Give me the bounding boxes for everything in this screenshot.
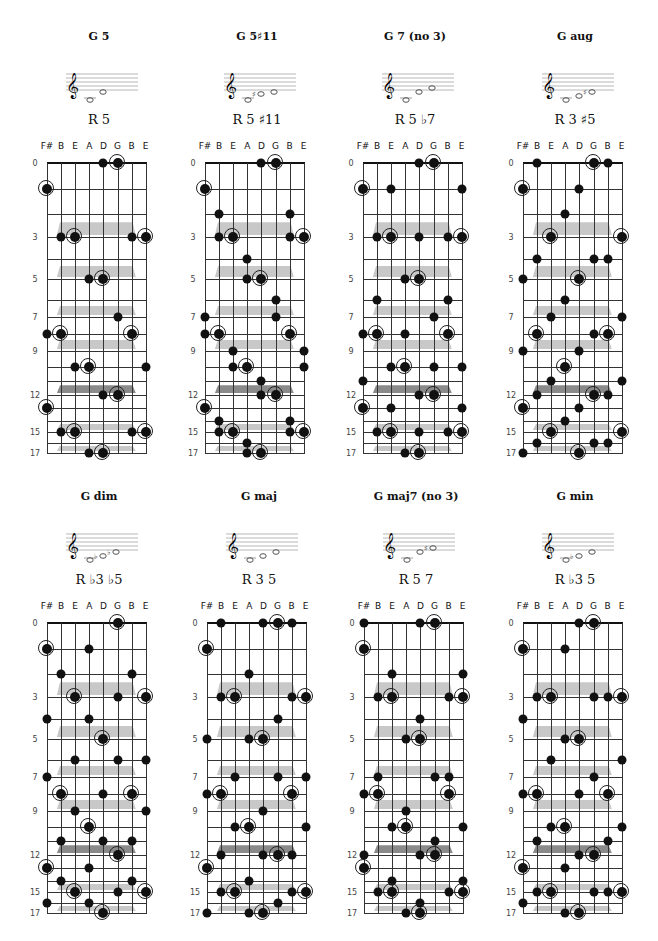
string-name-label: E bbox=[72, 141, 78, 151]
root-note-dot bbox=[400, 362, 410, 372]
string-line bbox=[292, 623, 293, 913]
fret-number-label: 0 bbox=[32, 619, 37, 628]
chord-note-dot bbox=[285, 417, 294, 426]
chord-note-dot bbox=[519, 790, 528, 799]
root-note-dot bbox=[373, 789, 383, 799]
chord-diagram: G 7 (no 3)𝄞R 5 ♭7F#BEADGBE03579121517 bbox=[336, 0, 494, 460]
string-name-label: A bbox=[86, 601, 92, 611]
chord-note-dot bbox=[141, 807, 150, 816]
fret-number-label: 12 bbox=[190, 851, 200, 860]
chord-note-dot bbox=[141, 363, 150, 372]
fret-number-label: 9 bbox=[508, 347, 513, 356]
inlay-marker bbox=[57, 766, 136, 775]
root-note-dot bbox=[70, 692, 80, 702]
chord-note-dot bbox=[519, 449, 528, 458]
root-note-dot bbox=[258, 908, 268, 918]
string-name-label: F# bbox=[358, 601, 371, 611]
string-name-label: E bbox=[388, 141, 394, 151]
root-note-dot bbox=[574, 274, 584, 284]
chord-diagram: G 5♯11𝄞♯R 5 ♯11F#BEADGBE03579121517 bbox=[178, 0, 336, 460]
inlay-marker bbox=[217, 800, 296, 809]
string-name-label: D bbox=[258, 141, 265, 151]
chord-note-dot bbox=[231, 823, 240, 832]
chord-note-dot bbox=[416, 619, 425, 628]
chord-note-dot bbox=[589, 888, 598, 897]
chord-note-dot bbox=[533, 439, 542, 448]
root-note-dot bbox=[574, 908, 584, 918]
fret-number-label: 5 bbox=[190, 275, 195, 284]
string-line bbox=[261, 163, 262, 453]
root-note-dot bbox=[228, 427, 238, 437]
fret-number-label: 9 bbox=[349, 807, 354, 816]
fret-number-label: 3 bbox=[348, 233, 353, 242]
chord-note-dot bbox=[547, 313, 556, 322]
fret-number-label: 9 bbox=[348, 347, 353, 356]
chord-note-dot bbox=[203, 909, 212, 918]
string-line bbox=[221, 623, 222, 913]
root-note-dot bbox=[141, 232, 151, 242]
root-note-dot bbox=[574, 448, 584, 458]
root-note-dot bbox=[127, 329, 137, 339]
root-note-dot bbox=[589, 618, 599, 628]
string-line bbox=[247, 163, 248, 453]
fret-number-label: 12 bbox=[188, 391, 198, 400]
root-note-dot bbox=[532, 789, 542, 799]
fret-number-label: 9 bbox=[32, 347, 37, 356]
string-line bbox=[278, 623, 279, 913]
string-line bbox=[75, 623, 76, 913]
chord-note-dot bbox=[57, 670, 66, 679]
chord-note-dot bbox=[215, 210, 224, 219]
chord-note-dot bbox=[71, 756, 80, 765]
chord-note-dot bbox=[43, 773, 52, 782]
chord-note-dot bbox=[229, 363, 238, 372]
chord-note-dot bbox=[589, 330, 598, 339]
string-name-label: B bbox=[58, 601, 64, 611]
string-name-label: G bbox=[431, 601, 438, 611]
root-note-dot bbox=[200, 184, 210, 194]
string-name-label: D bbox=[576, 141, 583, 151]
chord-note-dot bbox=[561, 735, 570, 744]
fret-number-label: 15 bbox=[190, 888, 200, 897]
fret-number-label: 17 bbox=[346, 449, 356, 458]
string-line bbox=[235, 623, 236, 913]
root-note-dot bbox=[301, 887, 311, 897]
chord-note-dot bbox=[402, 909, 411, 918]
chord-note-dot bbox=[374, 888, 383, 897]
string-name-label: B bbox=[129, 601, 135, 611]
inlay-marker bbox=[374, 766, 453, 775]
root-note-dot bbox=[113, 390, 123, 400]
chord-note-dot bbox=[561, 417, 570, 426]
fret-number-label: 9 bbox=[192, 807, 197, 816]
string-line bbox=[263, 623, 264, 913]
root-note-dot bbox=[603, 789, 613, 799]
chord-note-dot bbox=[430, 773, 439, 782]
string-line bbox=[537, 163, 538, 453]
string-name-label: F# bbox=[517, 141, 530, 151]
chord-note-dot bbox=[259, 619, 268, 628]
chord-note-dot bbox=[85, 449, 94, 458]
fret-number-label: 7 bbox=[508, 313, 513, 322]
string-name-label: G bbox=[272, 141, 279, 151]
chord-note-dot bbox=[533, 888, 542, 897]
fret-number-label: 0 bbox=[349, 619, 354, 628]
chord-note-dot bbox=[273, 773, 282, 782]
string-name-label: E bbox=[619, 601, 625, 611]
string-name-label: D bbox=[260, 601, 267, 611]
chord-note-dot bbox=[127, 837, 136, 846]
root-note-dot bbox=[415, 734, 425, 744]
root-note-dot bbox=[271, 158, 281, 168]
chord-note-dot bbox=[429, 363, 438, 372]
chord-note-dot bbox=[575, 619, 584, 628]
root-note-dot bbox=[202, 863, 212, 873]
chord-note-dot bbox=[617, 823, 626, 832]
string-name-label: B bbox=[605, 141, 611, 151]
root-note-dot bbox=[386, 232, 396, 242]
chord-note-dot bbox=[271, 313, 280, 322]
string-name-label: A bbox=[403, 601, 409, 611]
string-name-label: B bbox=[58, 141, 64, 151]
chord-note-dot bbox=[547, 823, 556, 832]
root-note-dot bbox=[230, 692, 240, 702]
fret-number-label: 17 bbox=[506, 449, 516, 458]
root-note-dot bbox=[216, 789, 226, 799]
string-name-label: E bbox=[301, 141, 307, 151]
